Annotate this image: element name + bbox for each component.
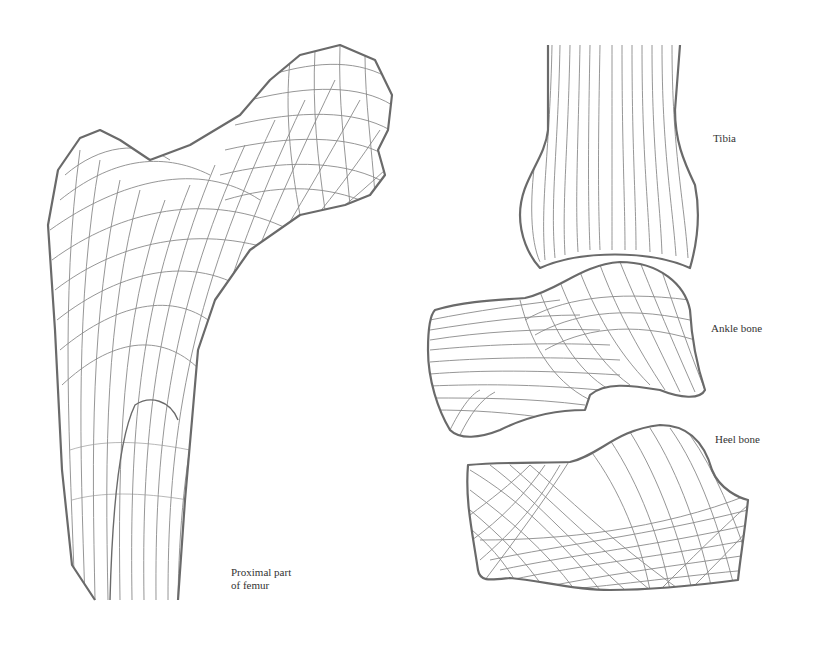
bone-drawing	[0, 0, 813, 660]
heel-bone-drawing	[467, 425, 748, 590]
tibia-label: Tibia	[713, 132, 736, 145]
femur-label: Proximal part of femur	[231, 566, 291, 592]
tibia-drawing	[520, 45, 698, 268]
femur-drawing	[48, 45, 392, 600]
femur-label-line1: Proximal part	[231, 566, 291, 579]
heel-bone-label: Heel bone	[715, 433, 760, 446]
femur-label-line2: of femur	[231, 579, 291, 592]
ankle-bone-label: Ankle bone	[711, 322, 762, 335]
ankle-bone-drawing	[428, 262, 705, 437]
